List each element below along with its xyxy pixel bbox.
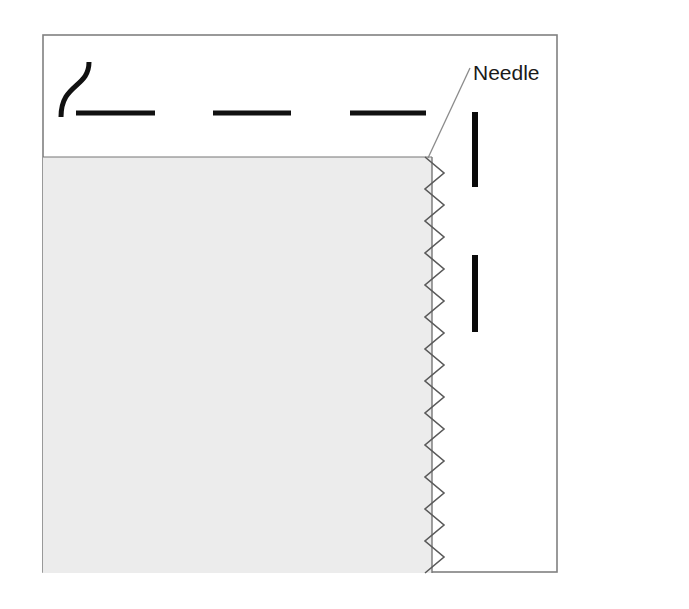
- sewing-diagram: Needle: [0, 0, 689, 609]
- fabric-panel: [43, 157, 432, 573]
- needle-bar-1: [472, 112, 478, 187]
- needle-label: Needle: [473, 61, 540, 84]
- needle-bar-2: [472, 255, 478, 332]
- diagram-canvas: Needle: [0, 0, 689, 609]
